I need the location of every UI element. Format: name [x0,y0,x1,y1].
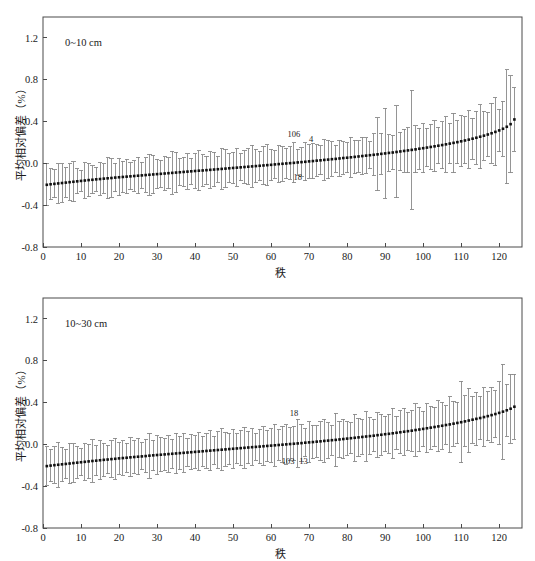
svg-text:110: 110 [453,251,468,262]
svg-text:1.2: 1.2 [25,33,38,44]
svg-text:-0.8: -0.8 [21,242,38,253]
svg-text:0: 0 [40,251,45,262]
svg-text:100: 100 [415,532,431,543]
chart-panel-bottom: 0102030405060708090100110120-0.8-0.40.00… [0,281,535,561]
svg-text:1.2: 1.2 [25,314,38,325]
svg-text:0: 0 [40,532,45,543]
svg-text:-0.8: -0.8 [21,523,38,534]
svg-text:40: 40 [190,251,201,262]
chart-annotation: 18 [290,408,299,418]
y-axis-label-bottom: 平均相对偏差（%） [12,364,28,461]
svg-text:100: 100 [415,251,431,262]
panel-subtitle-top: 0~10 cm [65,37,102,48]
svg-text:120: 120 [491,532,507,543]
x-axis-label-top: 秩 [275,264,286,280]
x-axis-label-bottom: 秩 [275,545,286,561]
chart-annotation: 106 [288,129,301,139]
svg-text:60: 60 [266,251,277,262]
svg-text:120: 120 [491,251,507,262]
svg-text:90: 90 [380,532,391,543]
chart-annotation: 103 [282,456,295,466]
svg-text:30: 30 [152,251,163,262]
svg-text:80: 80 [342,251,353,262]
svg-text:50: 50 [228,251,239,262]
chart-annotation: 18 [293,172,302,182]
svg-text:40: 40 [190,532,201,543]
svg-text:80: 80 [342,532,353,543]
chart-annotation: 13 [299,456,308,466]
chart-annotation: 4 [309,134,314,144]
svg-text:10: 10 [76,532,87,543]
svg-text:110: 110 [453,532,468,543]
figure-root: 0102030405060708090100110120-0.8-0.40.00… [0,0,535,561]
svg-text:50: 50 [228,532,239,543]
chart-panel-top: 0102030405060708090100110120-0.8-0.40.00… [0,0,535,280]
svg-text:-0.4: -0.4 [21,200,38,211]
svg-text:20: 20 [114,532,125,543]
svg-text:60: 60 [266,532,277,543]
svg-text:70: 70 [304,251,315,262]
svg-text:10: 10 [76,251,87,262]
svg-text:-0.4: -0.4 [21,481,38,492]
panel-subtitle-bottom: 10~30 cm [65,318,107,329]
svg-text:90: 90 [380,251,391,262]
svg-text:70: 70 [304,532,315,543]
y-axis-label-top: 平均相对偏差（%） [12,83,28,180]
svg-text:30: 30 [152,532,163,543]
svg-text:20: 20 [114,251,125,262]
